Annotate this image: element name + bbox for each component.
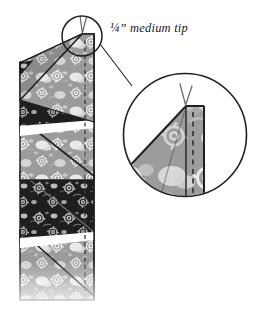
prairie-point-illustration: ¼” medium tip — [0, 0, 261, 314]
strip-bottom-fade — [14, 262, 100, 314]
prairie-point-unit-4 — [20, 172, 94, 248]
medium-tip-annotation-label: ¼” medium tip — [110, 22, 188, 35]
illustration-canvas — [0, 0, 261, 314]
prairie-point-strip — [14, 34, 100, 314]
